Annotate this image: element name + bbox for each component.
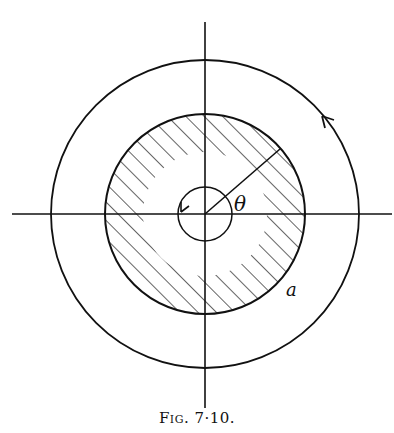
- figure-diagram: θ a: [0, 0, 394, 433]
- figure-caption: Fig. 7·10.: [0, 409, 394, 427]
- radius-a-label: a: [286, 279, 297, 300]
- theta-label: θ: [234, 192, 246, 216]
